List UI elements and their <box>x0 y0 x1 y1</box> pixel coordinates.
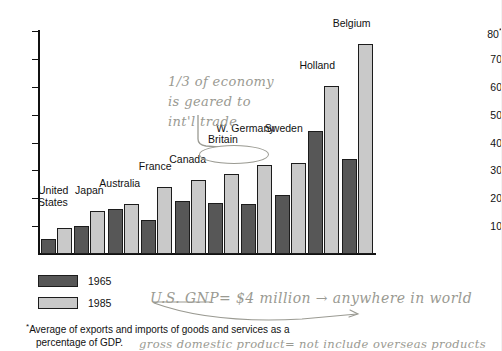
country-label-canada: Canada <box>158 154 218 165</box>
bar-britain-1965 <box>208 203 223 254</box>
country-label-line-1: Belgium <box>322 18 382 29</box>
handwritten-note-economy: 1/3 of economy is geared to int'l trade <box>168 72 274 132</box>
country-label-line-2: States <box>38 196 98 208</box>
bar-chart-figure: 1020304050607080* UnitedStatesJapanAustr… <box>0 0 502 351</box>
legend-label-1965: 1965 <box>88 275 111 287</box>
country-label-belgium: Belgium <box>322 18 382 29</box>
legend-item-1985: 1985 <box>38 294 111 312</box>
handwritten-note-economy-line-3: int'l trade <box>168 112 274 132</box>
y-axis-tick-80 <box>32 31 39 32</box>
country-label-line-1: Britain <box>193 134 253 145</box>
legend-swatch-1985 <box>38 297 78 309</box>
country-label-australia: Australia <box>90 178 150 189</box>
y-axis-tick-label-30: 30 <box>468 165 502 175</box>
bar-australia-1985 <box>124 204 139 254</box>
bar-group-united-states <box>41 31 73 254</box>
bar-france-1985 <box>157 187 172 254</box>
bar-group-japan <box>74 31 106 254</box>
y-axis-tick-label-10: 10 <box>468 221 502 231</box>
country-label-line-1: Canada <box>158 154 218 165</box>
y-axis-tick-label-70: 70 <box>468 54 502 64</box>
footnote-line-1: Average of exports and imports of goods … <box>29 324 290 335</box>
bar-belgium-1965 <box>342 159 357 254</box>
bar-w-germany-1965 <box>241 204 256 254</box>
y-axis-tick-30 <box>32 170 39 171</box>
legend-item-1965: 1965 <box>38 272 111 290</box>
y-axis-tick-label-60: 60 <box>468 82 502 92</box>
y-axis-tick-label-20: 20 <box>468 193 502 203</box>
y-axis-tick-label-80: 80* <box>468 26 502 39</box>
country-label-britain: Britain <box>193 134 253 145</box>
legend-label-1985: 1985 <box>88 297 111 309</box>
bar-japan-1985 <box>90 211 105 254</box>
bar-britain-1985 <box>224 174 239 254</box>
bar-sweden-1965 <box>275 195 290 254</box>
y-axis-tick-60 <box>32 87 39 88</box>
country-label-line-1: Holland <box>287 60 347 71</box>
legend-swatch-1965 <box>38 275 78 287</box>
handwritten-note-gdp: gross domestic product= not include over… <box>139 337 486 351</box>
bar-australia-1965 <box>108 209 123 254</box>
handwritten-note-gnp: U.S. GNP= $4 million → anywhere in world <box>150 290 472 306</box>
bar-sweden-1985 <box>291 163 306 254</box>
y-axis-tick-label-50: 50 <box>468 110 502 120</box>
y-axis-tick-40 <box>32 143 39 144</box>
country-label-holland: Holland <box>287 60 347 71</box>
bar-holland-1985 <box>324 86 339 254</box>
y-axis-tick-70 <box>32 59 39 60</box>
bar-japan-1965 <box>74 226 89 254</box>
chart-legend: 19651985 <box>38 272 111 316</box>
y-axis-tick-10 <box>32 226 39 227</box>
bar-united-states-1965 <box>41 239 56 254</box>
bar-w-germany-1985 <box>257 165 272 254</box>
bar-canada-1985 <box>191 180 206 254</box>
handwritten-note-economy-line-2: is geared to <box>168 92 274 112</box>
handwritten-note-economy-line-1: 1/3 of economy <box>168 72 274 92</box>
y-axis-tick-50 <box>32 115 39 116</box>
bar-group-australia <box>108 31 140 254</box>
y-axis-tick-label-40: 40 <box>468 138 502 148</box>
bar-canada-1965 <box>175 201 190 254</box>
bar-belgium-1985 <box>358 44 373 254</box>
bar-france-1965 <box>141 220 156 254</box>
bar-group-france <box>141 31 173 254</box>
country-label-line-1: Australia <box>90 178 150 189</box>
bar-united-states-1985 <box>57 228 72 254</box>
bar-holland-1965 <box>308 131 323 254</box>
